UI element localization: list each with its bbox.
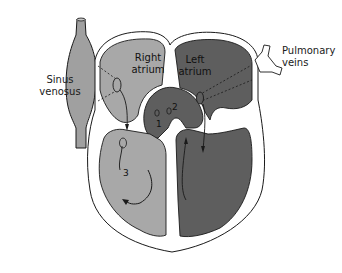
sinus-venosus-label: Sinus venosus bbox=[32, 74, 88, 98]
pulmonary-veins-label: Pulmonary veins bbox=[282, 45, 342, 69]
marker-2: 2 bbox=[172, 102, 178, 112]
pulmonary-veins-label-line1: Pulmonary bbox=[282, 45, 342, 57]
left-atrium-label-line1: Left bbox=[178, 54, 212, 66]
marker-3: 3 bbox=[123, 168, 129, 178]
pulmonary-veins-label-line2: veins bbox=[282, 57, 342, 69]
marker-1: 1 bbox=[156, 119, 162, 129]
right-atrium-label-line2: atrium bbox=[130, 64, 166, 76]
left-atrium-label-line2: atrium bbox=[178, 66, 212, 78]
right-atrium-label: Right atrium bbox=[130, 52, 166, 76]
left-atrium-label: Left atrium bbox=[178, 54, 212, 78]
sinus-venosus-label-line2: venosus bbox=[32, 86, 88, 98]
right-atrium-label-line1: Right bbox=[130, 52, 166, 64]
sinus-venosus-label-line1: Sinus bbox=[32, 74, 88, 86]
pulmonary-opening bbox=[197, 92, 204, 104]
pulmonary-veins-vessel bbox=[255, 45, 282, 75]
sinus-opening bbox=[113, 78, 121, 92]
heart-diagram bbox=[0, 0, 342, 273]
